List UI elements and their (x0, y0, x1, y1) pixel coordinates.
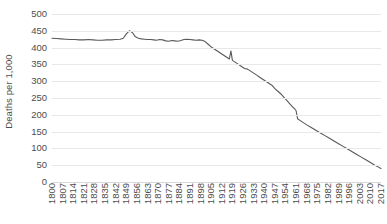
y-axis-title-label: Deaths per 1,000 (3, 54, 14, 128)
x-axis-tick-label: 2017 (375, 183, 387, 223)
x-axis-tick-text: 1919 (228, 183, 238, 204)
gridline (52, 98, 381, 99)
y-axis-tick-labels: 500450400350300250200150100500 (16, 0, 50, 224)
x-axis-tick-text: 1961 (291, 183, 301, 204)
y-axis-tick-label: 0 (16, 177, 50, 187)
x-axis-tick-text: 1849 (122, 183, 132, 204)
y-axis-tick-label: 150 (16, 127, 50, 137)
gridline (52, 48, 381, 49)
gridline (52, 148, 381, 149)
x-axis-tick-text: 1828 (90, 183, 100, 204)
x-axis-tick-text: 1807 (58, 183, 68, 204)
gridline (52, 165, 381, 166)
y-axis-tick-label: 50 (16, 160, 50, 170)
x-axis-tick-text: 1898 (196, 183, 206, 204)
gridline (52, 14, 381, 15)
y-axis-title: Deaths per 1,000 (0, 0, 16, 182)
x-axis-tick-text: 1905 (206, 183, 216, 204)
gridline (52, 31, 381, 32)
y-axis-tick-label: 350 (16, 60, 50, 70)
gridline (52, 81, 381, 82)
x-axis-tick-text: 1891 (185, 183, 195, 204)
gridline (52, 64, 381, 65)
x-axis-tick-text: 1975 (313, 183, 323, 204)
x-axis-tick-text: 1926 (238, 183, 248, 204)
x-axis-tick-text: 1947 (270, 183, 280, 204)
x-axis-tick-text: 1842 (111, 183, 121, 204)
gridline (52, 132, 381, 133)
x-axis-tick-text: 1800 (47, 183, 57, 204)
y-axis-tick-label: 500 (16, 9, 50, 19)
x-axis-tick-text: 1884 (175, 183, 185, 204)
x-axis-tick-text: 1933 (249, 183, 259, 204)
x-axis-tick-text: 2010 (366, 183, 376, 204)
y-axis-tick-label: 400 (16, 43, 50, 53)
x-axis-tick-text: 2017 (376, 183, 386, 204)
x-axis-tick-text: 1856 (132, 183, 142, 204)
x-axis-tick-text: 1989 (334, 183, 344, 204)
x-axis-tick-text: 1835 (100, 183, 110, 204)
y-axis-tick-label: 250 (16, 93, 50, 103)
x-axis-tick-text: 1863 (143, 183, 153, 204)
y-axis-tick-label: 200 (16, 110, 50, 120)
y-axis-tick-label: 450 (16, 26, 50, 36)
gridline (52, 115, 381, 116)
x-axis-tick-text: 2003 (355, 183, 365, 204)
x-axis-tick-text: 1940 (260, 183, 270, 204)
x-axis-tick-text: 1954 (281, 183, 291, 204)
x-axis-tick-text: 1968 (302, 183, 312, 204)
x-axis-tick-text: 1982 (323, 183, 333, 204)
x-axis-tick-text: 1821 (79, 183, 89, 204)
x-axis-tick-text: 1996 (344, 183, 354, 204)
plot-area (52, 14, 381, 182)
x-axis-tick-text: 1814 (68, 183, 78, 204)
y-axis-tick-label: 100 (16, 144, 50, 154)
x-axis-tick-text: 1912 (217, 183, 227, 204)
y-axis-tick-label: 300 (16, 76, 50, 86)
x-axis-tick-text: 1877 (164, 183, 174, 204)
x-axis-tick-text: 1870 (153, 183, 163, 204)
x-axis-tick-labels: 1800180718141821182818351842184918561863… (52, 183, 381, 224)
